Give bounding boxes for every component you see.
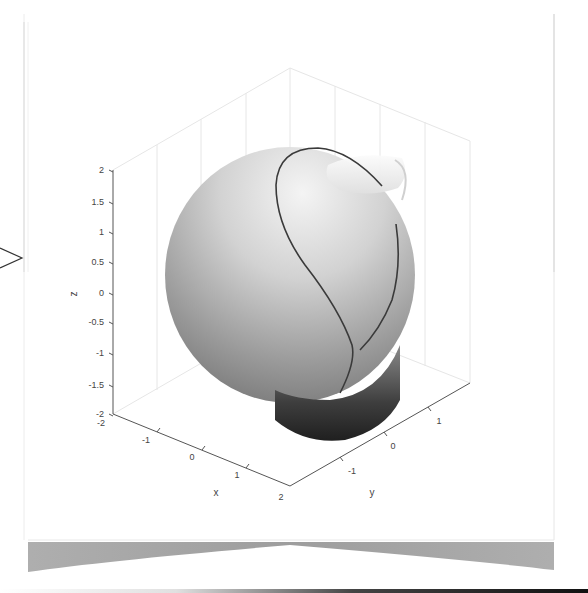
y-axis-label: y: [370, 487, 375, 498]
x-tick-neg2: -2: [97, 418, 105, 428]
y-tick-1: 1: [436, 416, 441, 426]
callout-pointer-icon: [0, 248, 22, 268]
z-tick-1.5: 1.5: [91, 197, 104, 207]
x-tick-0: 0: [189, 452, 194, 462]
x-tick-neg1: -1: [142, 435, 150, 445]
z-tick-neg1.5: -1.5: [88, 380, 104, 390]
x-axis: -2 -1 0 1 2 x: [97, 414, 290, 502]
z-axis-label: z: [68, 292, 79, 297]
x-axis-label: x: [214, 487, 219, 498]
z-tick-2: 2: [99, 165, 104, 175]
z-tick-neg1: -1: [96, 348, 104, 358]
y-tick-neg1: -1: [348, 466, 356, 476]
card-shadow: [28, 540, 554, 572]
y-tick-0: 0: [390, 441, 395, 451]
z-tick-0.5: 0.5: [91, 257, 104, 267]
z-tick-1: 1: [99, 227, 104, 237]
z-tick-neg0.5: -0.5: [88, 317, 104, 327]
plot-canvas: 2 1.5 1 0.5 0 -0.5 -1 -1.5 -2 z -2 -1 0 …: [0, 0, 588, 593]
x-tick-2: 2: [278, 492, 283, 502]
bottom-bar: [0, 589, 588, 593]
z-tick-0: 0: [99, 288, 104, 298]
z-axis: 2 1.5 1 0.5 0 -0.5 -1 -1.5 -2 z: [68, 165, 113, 419]
x-tick-1: 1: [234, 470, 239, 480]
